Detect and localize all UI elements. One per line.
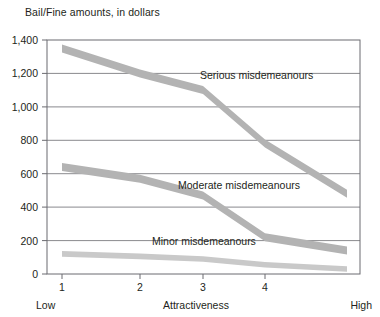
chart-plot-area: 1,400 1,200 1,000 800 600 400 200 0 Seri… — [0, 0, 380, 317]
xtick-label-1: 1 — [59, 281, 65, 293]
x-axis-tick-labels: 1 2 3 4 — [59, 281, 268, 293]
x-axis-ticks — [62, 274, 265, 279]
series-band-minor-misdemeanours — [62, 251, 347, 272]
xtick-label-4: 4 — [262, 281, 268, 293]
chart-figure: Bail/Fine amounts, in dollars 1,400 — [0, 0, 380, 317]
xtick-label-2: 2 — [137, 281, 143, 293]
ytick-label-600: 600 — [20, 168, 38, 180]
ytick-label-800: 800 — [20, 134, 38, 146]
series-label-moderate-misdemeanours: Moderate misdemeanours — [178, 179, 300, 191]
x-axis-caption-row: Low Attractiveness High — [36, 299, 372, 311]
x-axis-title: Attractiveness — [163, 299, 229, 311]
series-label-serious-misdemeanours: Serious misdemeanours — [200, 69, 313, 81]
y-axis-tick-labels: 1,400 1,200 1,000 800 600 400 200 0 — [12, 34, 38, 280]
x-axis-endpoint-high: High — [350, 299, 372, 311]
xtick-label-3: 3 — [200, 281, 206, 293]
ytick-label-1000: 1,000 — [12, 101, 38, 113]
ytick-label-200: 200 — [20, 235, 38, 247]
gridlines — [47, 73, 360, 240]
ytick-label-1200: 1,200 — [12, 67, 38, 79]
ytick-label-0: 0 — [32, 268, 38, 280]
x-axis-endpoint-low: Low — [36, 299, 56, 311]
ytick-label-400: 400 — [20, 201, 38, 213]
series-label-minor-misdemeanours: Minor misdemeanours — [152, 235, 256, 247]
ytick-label-1400: 1,400 — [12, 34, 38, 46]
y-axis-ticks — [42, 40, 47, 274]
